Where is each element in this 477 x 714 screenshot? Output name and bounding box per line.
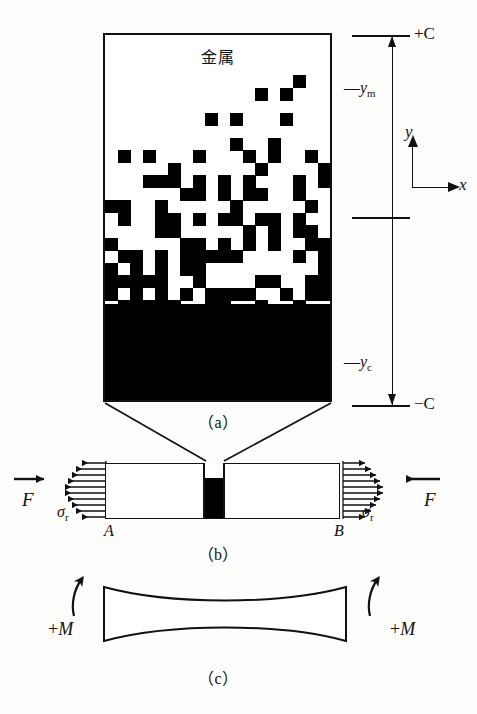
y-c-sub: c xyxy=(367,361,372,373)
y-c-dash: — xyxy=(344,353,360,370)
stress-label-right: σr xyxy=(362,503,374,523)
gradient-cell xyxy=(230,200,243,213)
gradient-cell xyxy=(255,88,268,101)
gradient-cell xyxy=(180,288,193,301)
axis-shaft xyxy=(392,35,393,406)
gradient-cell xyxy=(318,263,331,276)
stress-label-left: σr xyxy=(57,503,69,523)
gradient-cell xyxy=(193,250,206,263)
gradient-cell xyxy=(230,213,243,226)
gradient-cell xyxy=(268,138,281,151)
force-label-right: F xyxy=(424,489,436,511)
caption-panel-b: （b） xyxy=(178,541,258,565)
gradient-cell xyxy=(218,175,231,188)
gradient-cell xyxy=(280,288,293,301)
notch-black-fill xyxy=(205,478,223,518)
gradient-cell xyxy=(230,138,243,151)
gradient-cell xyxy=(180,238,193,251)
gradient-cell xyxy=(318,250,331,263)
gradient-cell xyxy=(193,188,206,201)
gradient-cell xyxy=(255,188,268,201)
bent-beam xyxy=(100,583,350,653)
gradient-cell xyxy=(130,288,143,301)
gradient-cell xyxy=(118,250,131,263)
gradient-cell xyxy=(305,200,318,213)
gradient-cell xyxy=(130,275,143,288)
gradient-cell xyxy=(193,213,206,226)
sigma-right-base: σ xyxy=(362,503,370,520)
gradient-cell xyxy=(255,275,268,288)
gradient-cell xyxy=(193,238,206,251)
gradient-cell xyxy=(143,150,156,163)
gradient-cell xyxy=(218,188,231,201)
concentration-axis: +C −C —ym —yc xyxy=(330,20,477,420)
sigma-right-sub: r xyxy=(370,511,374,523)
gradient-cell xyxy=(243,238,256,251)
gradient-cell xyxy=(105,288,118,301)
gradient-cell xyxy=(155,225,168,238)
gradient-cell xyxy=(218,288,231,301)
moment-right-sign: + xyxy=(390,619,400,639)
y-axis-label: y xyxy=(405,122,413,142)
saturated-region xyxy=(105,304,330,400)
gradient-cell xyxy=(118,275,131,288)
metal-label: 金属 xyxy=(105,44,330,68)
axis-tick-middle xyxy=(352,217,410,219)
gradient-cell xyxy=(218,238,231,251)
gradient-cell xyxy=(243,175,256,188)
gradient-cell xyxy=(268,150,281,163)
crack-notch xyxy=(204,463,224,519)
gradient-cell xyxy=(180,250,193,263)
gradient-cell xyxy=(155,275,168,288)
technical-figure: 金属 +C −C —ym —yc y x （a） xyxy=(0,0,477,714)
moment-arrow-right xyxy=(358,570,392,620)
gradient-cell xyxy=(268,238,281,251)
gradient-cell xyxy=(305,275,318,288)
gradient-cell xyxy=(268,213,281,226)
gradient-cell xyxy=(293,213,306,226)
label-y-c: —yc xyxy=(344,353,372,373)
gradient-cell xyxy=(130,250,143,263)
gradient-cell xyxy=(105,238,118,251)
beam-segment-left xyxy=(105,463,204,519)
gradient-cell xyxy=(318,288,331,301)
panel-c-beam-bending: +M +M （c） xyxy=(0,565,477,690)
gradient-cell xyxy=(155,200,168,213)
gradient-cell xyxy=(180,188,193,201)
gradient-cell xyxy=(155,250,168,263)
gradient-cell xyxy=(105,275,118,288)
x-axis-label: x xyxy=(459,175,467,195)
gradient-cell xyxy=(118,150,131,163)
gradient-cell xyxy=(280,88,293,101)
gradient-cell xyxy=(305,225,318,238)
force-arrow-left xyxy=(12,471,52,487)
axis-label-plus-c: +C xyxy=(414,24,435,44)
gradient-cell xyxy=(293,75,306,88)
gradient-cell xyxy=(143,175,156,188)
axis-arrow-up xyxy=(388,36,396,47)
sigma-left-sub: r xyxy=(65,511,69,523)
moment-left-sign: + xyxy=(48,619,58,639)
gradient-cell xyxy=(293,175,306,188)
moment-label-left: +M xyxy=(48,619,73,640)
gradient-cell xyxy=(168,213,181,226)
y-m-sub: m xyxy=(367,87,375,99)
gradient-cell xyxy=(155,288,168,301)
label-y-m: —ym xyxy=(344,79,376,99)
gradient-cell xyxy=(205,113,218,126)
gradient-cell xyxy=(193,263,206,276)
gradient-cell xyxy=(230,288,243,301)
gradient-cell xyxy=(105,200,118,213)
gradient-cell xyxy=(293,225,306,238)
gradient-cell xyxy=(205,250,218,263)
moment-right-symbol: M xyxy=(400,619,415,639)
gradient-cell xyxy=(155,175,168,188)
gradient-cell xyxy=(293,250,306,263)
panel-a-metal-section: 金属 xyxy=(103,33,332,402)
y-m-dash: — xyxy=(344,79,360,96)
gradient-cell xyxy=(155,263,168,276)
gradient-cell xyxy=(168,175,181,188)
force-arrow-right xyxy=(398,471,442,487)
gradient-cell xyxy=(305,288,318,301)
gradient-cell xyxy=(318,275,331,288)
